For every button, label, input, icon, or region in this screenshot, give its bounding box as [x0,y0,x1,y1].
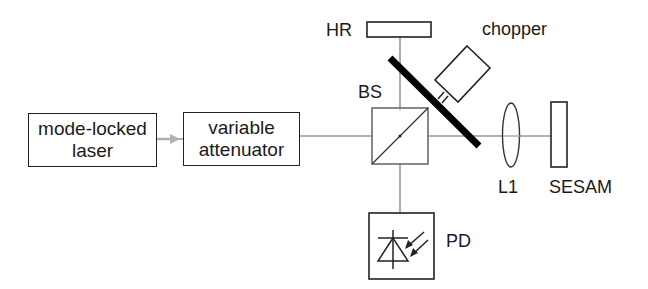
mode-locked-laser-box: mode-locked laser [28,113,157,167]
chopper-label: chopper [482,19,547,39]
bs-label: BS [358,82,382,102]
variable-attenuator-box: variable attenuator [183,112,300,166]
attenuator-label-line2: attenuator [199,139,285,161]
l1-label: L1 [498,177,518,197]
hr-label: HR [326,20,352,40]
laser-label-line2: laser [72,140,113,162]
chopper-motor [435,46,490,103]
sesam-mirror [551,102,567,167]
attenuator-label-line1: variable [208,117,275,139]
photodiode [369,213,434,279]
laser-label-line1: mode-locked [38,118,147,140]
beam-splitter-cube [372,108,428,164]
pd-label: PD [446,231,471,251]
hr-mirror [367,22,431,37]
sesam-label: SESAM [549,177,612,197]
beam-arrow-laser-to-attenuator [157,134,183,144]
lens-l1 [503,103,520,167]
